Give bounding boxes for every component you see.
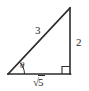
right-angle-marker (62, 67, 69, 75)
angle-theta-label: θ (20, 61, 24, 70)
vertical-leg-label: 2 (76, 37, 82, 48)
base-leg-label: √5 (33, 77, 45, 88)
radicand-label: 5 (38, 75, 45, 88)
hypotenuse-line (8, 8, 70, 74)
hypotenuse-label: 3 (35, 25, 41, 36)
right-triangle-figure: 3 2 √5 θ (0, 0, 89, 91)
